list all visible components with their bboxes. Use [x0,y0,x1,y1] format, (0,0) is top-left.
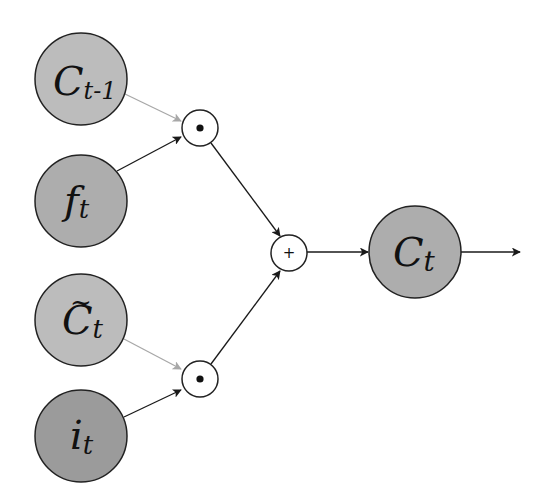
node-c-tilde: ~ Ct [35,274,127,366]
add-operator: + [271,235,307,271]
node-i-t-main: i [70,412,83,458]
hadamard-operator-bottom [182,361,218,397]
edge-cprev-to-mult-top [125,94,181,121]
node-c-t-main: C [393,229,424,275]
edge-ctilde-to-mult-bottom [124,339,181,369]
edge-it-to-mult-bottom [124,390,181,417]
node-c-prev: Ct-1 [35,33,127,125]
node-i-t: it [35,390,127,482]
node-f-t: ft [35,155,127,247]
node-c-t: Ct [369,206,461,298]
lstm-cell-state-diagram: Ct-1 ft ~ Ct it Ct [0,0,548,503]
edge-mult-top-to-add [211,143,280,236]
node-f-t-sub: t [79,194,90,224]
node-c-t-sub: t [424,245,436,278]
node-i-t-sub: t [83,430,94,460]
edge-mult-bottom-to-add [211,271,280,364]
node-c-prev-main: C [53,58,84,104]
hadamard-dot-icon [196,375,203,382]
plus-icon: + [283,244,296,262]
node-c-tilde-sub: t [93,314,104,344]
hadamard-operator-top [182,110,218,146]
edge-ft-to-mult-top [117,137,181,171]
hadamard-dot-icon [196,124,203,131]
node-c-tilde-main: C [62,297,93,343]
node-c-prev-sub: t-1 [84,77,117,105]
